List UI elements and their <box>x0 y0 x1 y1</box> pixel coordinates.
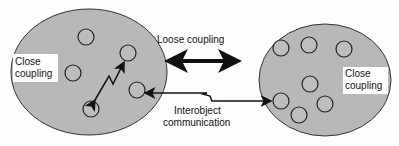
right-group-label-line1: Close <box>345 68 371 79</box>
interobject-label-line2: communication <box>163 117 230 128</box>
left-group-label-line2: coupling <box>15 68 52 79</box>
right-group-label-line2: coupling <box>345 80 382 91</box>
coupling-diagram: Close coupling Close coupling Loose coup… <box>0 0 399 146</box>
object <box>273 40 289 56</box>
loose-coupling-label: Loose coupling <box>157 34 224 45</box>
object <box>317 96 333 112</box>
left-group-label-line1: Close <box>15 56 41 67</box>
object <box>78 29 94 45</box>
object <box>129 82 145 98</box>
object <box>302 76 318 92</box>
object <box>336 41 352 57</box>
object <box>83 101 99 117</box>
interobject-label-line1: Interobject <box>174 105 221 116</box>
object <box>65 65 81 81</box>
object <box>120 45 136 61</box>
object <box>273 93 289 109</box>
object <box>291 107 307 123</box>
object <box>301 37 317 53</box>
